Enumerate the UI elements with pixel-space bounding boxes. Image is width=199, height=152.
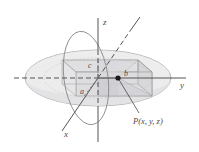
point-p-label: P(x, y, z) xyxy=(132,116,163,126)
y-axis-label: y xyxy=(179,80,184,90)
dimension-a-label: a xyxy=(80,87,84,96)
x-axis-negative-tip xyxy=(130,17,140,31)
dimension-b-label: b xyxy=(124,69,128,78)
x-axis-label: x xyxy=(63,129,68,139)
z-axis-label: z xyxy=(102,17,107,27)
ellipsoid-diagram: z y x c a b P(x, y, z) xyxy=(0,0,199,152)
dimension-c-label: c xyxy=(88,61,92,70)
point-p-marker xyxy=(115,75,120,80)
figure-container: z y x c a b P(x, y, z) xyxy=(0,0,199,152)
